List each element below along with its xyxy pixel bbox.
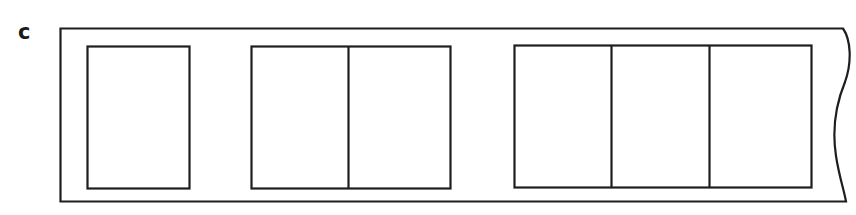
outer-strip [61,29,850,202]
strip-diagram [0,0,856,215]
group-2 [252,47,451,189]
cell-frame [252,47,451,189]
cell-frame [515,46,812,188]
group-1 [88,47,190,189]
group-3 [515,46,812,188]
cell [88,47,190,189]
